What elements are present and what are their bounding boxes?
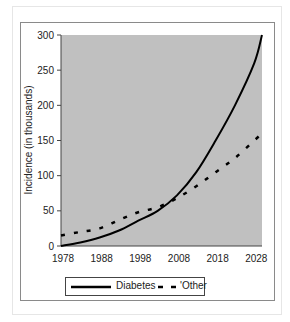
x-tick-label: 2008 — [168, 253, 191, 264]
x-tick-label: 1978 — [52, 253, 75, 264]
y-tick-label: 100 — [37, 170, 54, 181]
y-tick-label: 250 — [37, 65, 54, 76]
line-chart: 050100150200250300 197819881998200820182… — [0, 0, 290, 322]
x-axis-ticks: 197819881998200820182028 — [52, 253, 268, 264]
y-tick-label: 300 — [37, 30, 54, 41]
x-tick-label: 1988 — [91, 253, 114, 264]
legend-label-other: 'Other — [180, 280, 207, 291]
y-tick-label: 50 — [43, 205, 55, 216]
x-tick-label: 2018 — [206, 253, 229, 264]
legend-label-diabetes: Diabetes — [116, 280, 155, 291]
y-tick-label: 0 — [48, 241, 54, 252]
y-tick-label: 200 — [37, 100, 54, 111]
x-tick-label: 1998 — [129, 253, 152, 264]
y-axis-title: Incidence (in thousands) — [23, 86, 34, 195]
y-axis-ticks: 050100150200250300 — [37, 30, 61, 252]
plot-area — [61, 35, 262, 246]
y-tick-label: 150 — [37, 135, 54, 146]
x-tick-label: 2028 — [245, 253, 268, 264]
legend: Diabetes 'Other — [65, 277, 205, 296]
